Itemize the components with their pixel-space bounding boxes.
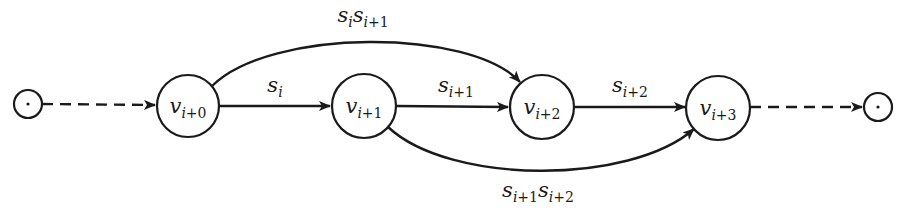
edge-start-to-v0: [42, 104, 155, 105]
edge-label-s-i-plus-2: si+2: [612, 73, 648, 100]
dot-icon: [876, 105, 879, 108]
edge-v1-to-v2: [396, 106, 508, 107]
edge-label-s-i: si: [267, 73, 282, 100]
end-terminal-node: [864, 93, 892, 121]
start-terminal-node: [14, 90, 42, 118]
node-v1: vi+1: [332, 74, 396, 138]
dot-icon: [26, 102, 29, 105]
diagram-canvas: vi+0 vi+1 vi+2 vi+3 si si+1 si+2 sisi+1 …: [0, 0, 905, 211]
node-v3: vi+3: [686, 76, 750, 140]
node-v0: vi+0: [157, 75, 219, 137]
edge-label-s-i-plus-1-s-i-plus-2: si+1si+2: [502, 178, 574, 205]
edge-label-s-i-plus-1: si+1: [438, 73, 474, 100]
node-v2: vi+2: [510, 75, 574, 139]
edge-label-s-i-s-i-plus-1: sisi+1: [337, 3, 388, 30]
